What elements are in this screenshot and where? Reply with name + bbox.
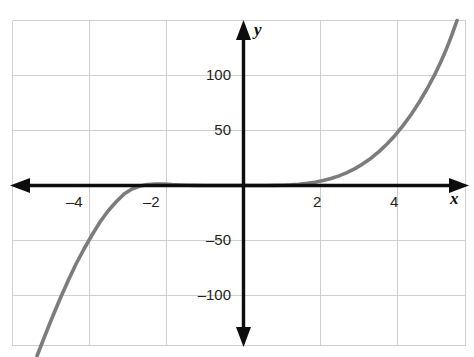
y-tick-label-100: 100: [177, 66, 231, 83]
x-axis: [10, 178, 469, 193]
x-tick-label-2: 2: [313, 193, 321, 210]
x-tick-label-4: 4: [390, 193, 398, 210]
x-tick-label-neg4: –4: [66, 193, 83, 210]
y-tick-label-neg100: –100: [167, 286, 231, 303]
y-tick-label-neg50: –50: [172, 231, 231, 248]
curve-y-equals-x-cubed: [37, 21, 457, 357]
y-axis-label: y: [254, 20, 262, 40]
x-tick-label-neg2: –2: [143, 193, 160, 210]
grid-lines: [13, 21, 466, 346]
cubic-function-graph: [0, 0, 474, 357]
y-tick-label-50: 50: [177, 121, 231, 138]
x-axis-label: x: [450, 189, 459, 209]
figure-container: –4 –2 2 4 100 50 –50 –100 y x: [0, 0, 474, 357]
y-axis: [236, 20, 251, 347]
